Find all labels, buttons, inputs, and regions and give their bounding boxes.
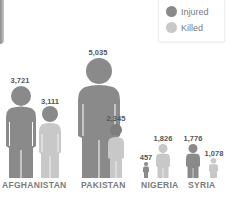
nigeria-injured-figure-icon xyxy=(143,162,149,178)
nigeria-killed-figure-icon xyxy=(156,144,170,178)
syria-killed-figure-icon xyxy=(209,158,218,178)
afghanistan-injured-value: 3,721 xyxy=(0,76,40,85)
syria-killed-value: 1,078 xyxy=(194,149,231,158)
country-label-afghanistan: AFGHANISTAN xyxy=(2,180,67,190)
cropped-panel-edge xyxy=(0,0,4,44)
legend: Injured Killed xyxy=(158,0,225,42)
pakistan-killed-figure-icon xyxy=(108,124,124,178)
legend-label-killed: Killed xyxy=(181,23,203,33)
injured-swatch-icon xyxy=(166,6,177,17)
pakistan-injured-value: 5,035 xyxy=(78,48,118,57)
country-label-pakistan: PAKISTAN xyxy=(81,180,126,190)
country-label-nigeria: NIGERIA xyxy=(141,180,179,190)
country-label-syria: SYRIA xyxy=(188,180,215,190)
killed-swatch-icon xyxy=(166,22,177,33)
afghanistan-killed-value: 3,111 xyxy=(30,97,70,106)
syria-injured-value: 1,776 xyxy=(173,134,213,143)
afghanistan-killed-figure-icon xyxy=(39,106,61,178)
legend-item-injured: Injured xyxy=(166,6,209,17)
legend-label-injured: Injured xyxy=(181,7,209,17)
legend-item-killed: Killed xyxy=(166,22,203,33)
pakistan-killed-value: 2,345 xyxy=(96,114,136,123)
